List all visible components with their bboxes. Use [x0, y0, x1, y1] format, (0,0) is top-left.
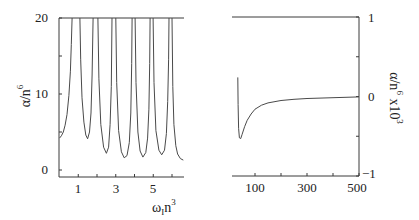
left-curve-branch	[135, 18, 150, 157]
right-ytick-label: −1	[362, 166, 376, 181]
left-curve-branch	[98, 18, 112, 153]
right-panel: 1 0 −1 100 300 500 α/n6 x103	[232, 10, 405, 195]
left-xtick-label: 3	[113, 181, 120, 196]
left-curve-branch	[116, 18, 132, 158]
left-ytick-label: 0	[42, 162, 49, 177]
left-curve-branch	[172, 18, 183, 160]
left-curve-branch	[60, 18, 73, 138]
figure: 20 10 0 1 3 5 α/n6 ωIn3 1 0 −1 100 300 5…	[0, 0, 419, 220]
right-xtick-label: 300	[297, 180, 317, 195]
left-curves	[60, 18, 184, 160]
right-y-axis-label: α/n6 x103	[387, 72, 405, 124]
right-curve	[238, 77, 359, 138]
left-xtick-label: 5	[150, 181, 157, 196]
left-xlabel-n: n	[164, 200, 171, 215]
left-curve-branch	[153, 18, 169, 155]
left-xtick-label: 1	[75, 181, 82, 196]
right-xtick-label: 100	[245, 180, 265, 195]
left-curve-branch	[80, 18, 93, 139]
svg-text:α/n6 x103: α/n6 x103	[387, 72, 405, 124]
left-ytick-label: 20	[35, 10, 48, 25]
left-ylabel-text: α/n	[18, 89, 33, 107]
right-ylabel-tail-sup: 3	[395, 119, 405, 124]
left-y-axis-label: α/n6	[15, 84, 33, 107]
right-ytick-label: 1	[368, 10, 375, 25]
right-ticks	[255, 17, 359, 176]
left-ylabel-sup: 6	[15, 84, 25, 89]
right-xtick-label: 500	[347, 180, 367, 195]
right-ytick-label: 0	[368, 89, 375, 104]
left-ytick-label: 10	[35, 86, 48, 101]
left-xlabel-omega: ω	[152, 200, 161, 215]
left-x-axis-label: ωIn3	[152, 197, 176, 217]
left-panel: 20 10 0 1 3 5 α/n6 ωIn3	[15, 10, 184, 217]
left-xlabel-sup: 3	[171, 197, 176, 207]
right-ylabel-tail: x10	[387, 95, 402, 120]
right-curves	[238, 77, 359, 138]
chart-canvas: 20 10 0 1 3 5 α/n6 ωIn3 1 0 −1 100 300 5…	[0, 0, 419, 220]
right-ylabel-text: α/n	[387, 72, 402, 90]
svg-text:α/n6: α/n6	[15, 84, 33, 107]
